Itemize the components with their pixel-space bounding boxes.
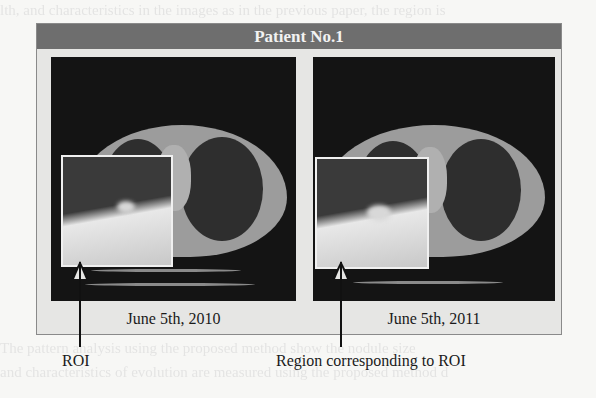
ct-table [91, 269, 241, 272]
left-lung [181, 137, 263, 241]
background-text: lth, and characteristics in the images a… [0, 2, 596, 19]
lesion [117, 201, 135, 213]
corresponding-region-inset [315, 157, 429, 269]
date-label-2010: June 5th, 2010 [51, 310, 296, 328]
figure-frame: Patient No.1 June 5th, 2010 June 5th, 20… [36, 23, 562, 335]
left-lung [441, 139, 521, 241]
ct-table [353, 281, 503, 284]
ct-table [85, 283, 255, 286]
roi-label: ROI [62, 352, 90, 370]
lesion [367, 205, 391, 221]
roi-arrow [79, 262, 81, 347]
date-label-2011: June 5th, 2011 [313, 310, 555, 328]
region-label: Region corresponding to ROI [276, 352, 466, 370]
region-arrow [340, 262, 342, 347]
roi-inset [61, 155, 173, 267]
figure-title: Patient No.1 [37, 24, 561, 49]
